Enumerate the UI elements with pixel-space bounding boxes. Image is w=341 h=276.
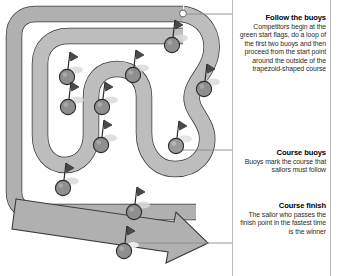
- course-svg: [0, 0, 232, 276]
- start-point-marker: [180, 10, 187, 17]
- caption-panel: Follow the buoys Competitors begin at th…: [232, 0, 341, 276]
- buoy-2: [60, 82, 84, 115]
- buoy-8: [168, 121, 192, 154]
- course-band-group: [14, 14, 212, 212]
- note-follow-heading: Follow the buoys: [238, 13, 326, 22]
- note-follow-the-buoys: Follow the buoys Competitors begin at th…: [238, 13, 326, 73]
- note-course-buoys: Course buoys Buoys mark the course that …: [238, 148, 326, 175]
- note-course-finish: Course finish The sailor who passes the …: [238, 201, 326, 236]
- note-finish-body: The sailor who passes the finish point i…: [238, 211, 326, 236]
- note-finish-heading: Course finish: [238, 201, 326, 210]
- note-buoys-body: Buoys mark the course that sailors must …: [238, 158, 326, 175]
- sailing-course-diagram: [0, 0, 232, 276]
- caption-panel-inner: Follow the buoys Competitors begin at th…: [233, 0, 331, 276]
- note-buoys-heading: Course buoys: [238, 148, 326, 157]
- course-diagram-page: Follow the buoys Competitors begin at th…: [0, 0, 341, 276]
- note-follow-body: Competitors begin at the green start fla…: [238, 23, 326, 73]
- buoy-1: [59, 52, 83, 85]
